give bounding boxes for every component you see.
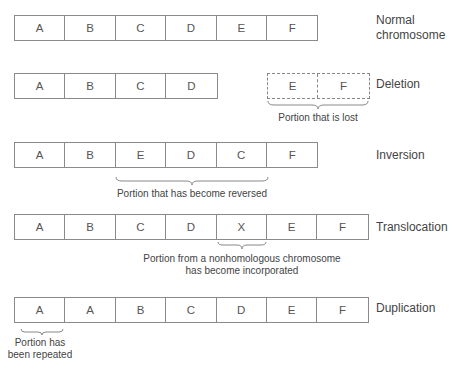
deletion-chromosome: A B C D: [14, 73, 218, 99]
gene-segment: F: [267, 143, 317, 167]
brace-icon: [218, 242, 266, 249]
normal-label-line2: chromosome: [376, 28, 445, 43]
duplication-chromosome: A A B C D E F: [14, 297, 369, 323]
gene-segment: D: [217, 298, 267, 322]
gene-segment: F: [317, 298, 367, 322]
gene-segment: A: [15, 16, 65, 40]
gene-segment: B: [65, 16, 115, 40]
gene-segment: C: [166, 298, 216, 322]
gene-segment: A: [15, 143, 65, 167]
translocation-label: Translocation: [376, 220, 448, 235]
gene-segment: E: [116, 143, 166, 167]
gene-segment: F: [267, 16, 317, 40]
normal-label-line1: Normal: [376, 13, 445, 28]
gene-segment: B: [65, 215, 115, 239]
gene-segment: E: [217, 16, 267, 40]
gene-segment: A: [65, 298, 115, 322]
translocation-caption-line2: has become incorporated: [142, 265, 342, 277]
gene-segment: E: [267, 298, 317, 322]
gene-segment: A: [15, 298, 65, 322]
gene-segment: F: [317, 215, 367, 239]
duplication-caption-line1: Portion has: [2, 337, 78, 349]
lost-segment: F: [318, 74, 368, 98]
gene-segment: A: [15, 215, 65, 239]
gene-segment: E: [267, 215, 317, 239]
gene-segment: X: [217, 215, 267, 239]
gene-segment: C: [116, 74, 166, 98]
normal-chromosome: A B C D E F: [14, 15, 318, 41]
gene-segment: C: [217, 143, 267, 167]
translocation-chromosome: A B C D X E F: [14, 214, 369, 240]
gene-segment: B: [65, 143, 115, 167]
gene-segment: B: [116, 298, 166, 322]
translocation-caption-line1: Portion from a nonhomologous chromosome: [142, 253, 342, 265]
duplication-caption: Portion has been repeated: [2, 337, 78, 361]
gene-segment: D: [166, 16, 216, 40]
brace-icon: [268, 101, 368, 109]
inversion-label: Inversion: [376, 148, 425, 163]
gene-segment: A: [15, 74, 65, 98]
deletion-caption: Portion that is lost: [268, 112, 368, 124]
lost-portion: E F: [267, 73, 370, 99]
inversion-chromosome: A B E D C F: [14, 142, 318, 168]
gene-segment: D: [166, 143, 216, 167]
normal-label: Normal chromosome: [376, 13, 445, 43]
gene-segment: D: [166, 215, 216, 239]
inversion-caption: Portion that has become reversed: [92, 188, 292, 200]
deletion-label: Deletion: [376, 77, 420, 92]
translocation-caption: Portion from a nonhomologous chromosome …: [142, 253, 342, 277]
gene-segment: C: [116, 16, 166, 40]
gene-segment: B: [65, 74, 115, 98]
gene-segment: D: [166, 74, 216, 98]
lost-segment: E: [268, 74, 318, 98]
duplication-label: Duplication: [376, 301, 435, 316]
brace-icon: [21, 329, 63, 335]
duplication-caption-line2: been repeated: [2, 349, 78, 361]
gene-segment: C: [116, 215, 166, 239]
brace-icon: [116, 177, 268, 185]
